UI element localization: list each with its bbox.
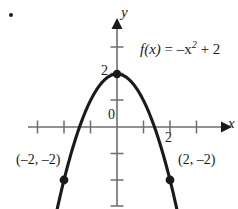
math-figure-parabola: y x 2 2 0 (–2, –2) (2, –2) f(x) = –x2 + … [0, 0, 238, 209]
right-point-label: (2, –2) [178, 153, 215, 167]
x-tick-label-2: 2 [165, 131, 172, 145]
right-point-marker [166, 176, 175, 185]
origin-label: 0 [108, 108, 115, 122]
function-argument: (x) [144, 41, 161, 57]
parabola-plot [0, 0, 238, 209]
function-constant: + 2 [197, 41, 220, 57]
y-axis-label: y [121, 5, 128, 20]
y-tick-label-2: 2 [101, 64, 108, 78]
x-axis-label: x [228, 116, 235, 131]
function-equation-label: f(x) = –x2 + 2 [140, 40, 220, 57]
vertex-point-marker [113, 70, 121, 78]
left-point-label: (–2, –2) [16, 153, 60, 167]
left-point-marker [60, 176, 69, 185]
x-axis [28, 121, 232, 134]
function-equals: = –x [161, 41, 192, 57]
